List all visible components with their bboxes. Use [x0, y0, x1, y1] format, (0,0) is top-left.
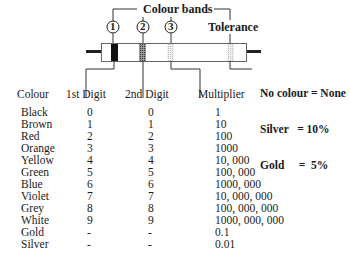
cell-first-digit: 1: [87, 118, 93, 130]
cell-second-digit: -: [148, 226, 152, 238]
cell-multiplier: 100, 000, 000: [215, 202, 278, 214]
cell-second-digit: 6: [148, 178, 154, 190]
cell-multiplier: 100, 000: [215, 166, 255, 178]
cell-second-digit: 1: [148, 118, 154, 130]
cell-second-digit: 2: [148, 130, 154, 142]
cell-second-digit: 7: [148, 190, 154, 202]
cell-colour: Gold: [21, 226, 44, 238]
cell-second-digit: 9: [148, 214, 154, 226]
header-colour: Colour: [17, 88, 49, 100]
resistor-diagram: Colour bands 1 2 3 Tolerance No colour =…: [0, 0, 350, 100]
header-second-digit: 2nd Digit: [125, 88, 169, 100]
cell-multiplier: 1000, 000, 000: [215, 214, 284, 226]
cell-colour: Green: [21, 166, 49, 178]
table-row: Red 2 2 100: [0, 130, 350, 142]
cell-colour: Brown: [21, 118, 52, 130]
cell-colour: Blue: [21, 178, 43, 190]
cell-first-digit: 5: [87, 166, 93, 178]
tolerance-none: No colour = None: [260, 87, 346, 99]
table-row: Gold - - 0.1: [0, 226, 350, 238]
table-row: Yellow 4 4 10, 000: [0, 154, 350, 166]
table-row: Black 0 0 1: [0, 106, 350, 118]
table-row: Orange 3 3 1000: [0, 142, 350, 154]
table-row: Blue 6 6 1000, 000: [0, 178, 350, 190]
colour-bands-title: Colour bands: [141, 2, 214, 17]
header-first-digit: 1st Digit: [66, 88, 106, 100]
band-marker-1: 1: [110, 20, 116, 32]
cell-colour: Violet: [21, 190, 49, 202]
cell-colour: Yellow: [21, 154, 54, 166]
cell-second-digit: 3: [148, 142, 154, 154]
cell-multiplier: 0.1: [215, 226, 229, 238]
cell-multiplier: 1000: [215, 142, 238, 154]
cell-first-digit: 7: [87, 190, 93, 202]
table-row: Green 5 5 100, 000: [0, 166, 350, 178]
cell-first-digit: 2: [87, 130, 93, 142]
cell-colour: Red: [21, 130, 40, 142]
cell-first-digit: -: [87, 226, 91, 238]
cell-second-digit: 4: [148, 154, 154, 166]
cell-first-digit: 9: [87, 214, 93, 226]
cell-multiplier: 10, 000: [215, 154, 250, 166]
cell-multiplier: 0.01: [215, 238, 235, 250]
band-marker-2: 2: [140, 20, 146, 32]
table-row: Violet 7 7 10, 000, 000: [0, 190, 350, 202]
table-row: White 9 9 1000, 000, 000: [0, 214, 350, 226]
band-marker-3: 3: [168, 20, 174, 32]
cell-multiplier: 10, 000, 000: [215, 190, 273, 202]
cell-multiplier: 100: [215, 130, 232, 142]
cell-first-digit: 6: [87, 178, 93, 190]
cell-multiplier: 1: [215, 106, 221, 118]
cell-second-digit: 5: [148, 166, 154, 178]
cell-first-digit: 3: [87, 142, 93, 154]
cell-first-digit: 0: [87, 106, 93, 118]
cell-colour: White: [21, 214, 49, 226]
header-multiplier: Multiplier: [198, 88, 245, 100]
cell-colour: Orange: [21, 142, 55, 154]
tolerance-label: Tolerance: [208, 20, 258, 35]
cell-second-digit: 8: [148, 202, 154, 214]
cell-colour: Grey: [21, 202, 44, 214]
cell-first-digit: 4: [87, 154, 93, 166]
cell-colour: Black: [21, 106, 48, 118]
cell-multiplier: 10: [215, 118, 227, 130]
cell-first-digit: 8: [87, 202, 93, 214]
table-row: Brown 1 1 10: [0, 118, 350, 130]
cell-first-digit: -: [87, 238, 91, 250]
table-row: Silver - - 0.01: [0, 238, 350, 250]
cell-second-digit: 0: [148, 106, 154, 118]
table-row: Grey 8 8 100, 000, 000: [0, 202, 350, 214]
cell-multiplier: 1000, 000: [215, 178, 261, 190]
cell-colour: Silver: [21, 238, 48, 250]
cell-second-digit: -: [148, 238, 152, 250]
